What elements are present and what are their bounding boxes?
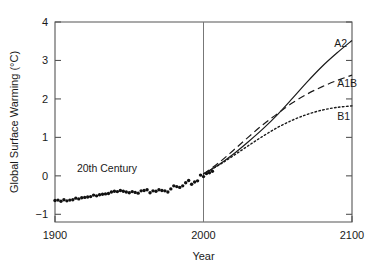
observation-point — [65, 199, 68, 202]
observation-point — [95, 194, 98, 197]
series-observed-20th-century — [53, 170, 214, 203]
observation-point — [199, 173, 202, 176]
observation-point — [107, 192, 110, 195]
observation-point — [169, 187, 172, 190]
x-tick-label: 2100 — [340, 229, 364, 241]
observation-point — [202, 175, 205, 178]
observation-point — [178, 186, 181, 189]
observation-point — [133, 191, 136, 194]
axis-tick-labels: −101234190020002100 — [35, 16, 364, 241]
series-curve-a1b — [204, 75, 353, 174]
observation-point — [80, 196, 83, 199]
series-label-b1: B1 — [337, 110, 350, 122]
observation-point — [62, 198, 65, 201]
data-series — [53, 40, 352, 202]
x-axis-title: Year — [192, 250, 215, 262]
observation-point — [157, 188, 160, 191]
x-tick-label: 1900 — [43, 229, 67, 241]
observation-point — [122, 190, 125, 193]
series-curve-a2 — [204, 40, 353, 173]
observation-point — [172, 184, 175, 187]
annotation-20th-century: 20th Century — [77, 162, 138, 174]
observation-point — [181, 184, 184, 187]
observation-point — [83, 196, 86, 199]
observation-point — [166, 190, 169, 193]
observation-point — [187, 179, 190, 182]
chart-annotations: 20th CenturyA2A1BB1 — [77, 37, 357, 174]
observation-point — [128, 191, 131, 194]
observation-point — [77, 197, 80, 200]
observation-point — [125, 190, 128, 193]
series-label-a2: A2 — [334, 37, 347, 49]
y-tick-label: 3 — [42, 54, 48, 66]
observation-point — [163, 189, 166, 192]
y-tick-label: 2 — [42, 93, 48, 105]
chart-canvas: −101234190020002100 20th CenturyA2A1BB1 … — [0, 0, 380, 280]
global-surface-warming-chart: −101234190020002100 20th CenturyA2A1BB1 … — [0, 0, 380, 280]
observation-point — [145, 188, 148, 191]
observation-point — [113, 190, 116, 193]
y-tick-label: 1 — [42, 131, 48, 143]
x-tick-label: 2000 — [191, 229, 215, 241]
observation-point — [68, 198, 71, 201]
observation-point — [151, 189, 154, 192]
observation-point — [136, 191, 139, 194]
observation-point — [59, 200, 62, 203]
observation-point — [139, 189, 142, 192]
observation-point — [142, 189, 145, 192]
observation-point — [110, 190, 113, 193]
observation-point — [104, 192, 107, 195]
observation-point — [131, 190, 134, 193]
observation-point — [196, 179, 199, 182]
series-label-a1b: A1B — [337, 77, 357, 89]
series-curve-b1 — [204, 106, 353, 174]
observation-point — [184, 181, 187, 184]
observation-point — [190, 183, 193, 186]
observation-point — [154, 190, 157, 193]
observation-point — [101, 193, 104, 196]
observation-point — [148, 191, 151, 194]
y-tick-label: 0 — [42, 170, 48, 182]
observation-point — [92, 193, 95, 196]
y-tick-label: 4 — [42, 16, 48, 28]
observation-point — [116, 190, 119, 193]
observation-point — [175, 185, 178, 188]
observation-point — [71, 198, 74, 201]
y-tick-label: −1 — [35, 208, 48, 220]
y-axis-title: Global Surface Warming (°C) — [8, 51, 20, 193]
observation-point — [53, 199, 56, 202]
observation-point — [160, 189, 163, 192]
observation-point — [89, 195, 92, 198]
observation-point — [193, 180, 196, 183]
observation-point — [56, 198, 59, 201]
observation-point — [86, 195, 89, 198]
observation-point — [98, 193, 101, 196]
observation-point — [119, 189, 122, 192]
observation-point — [74, 196, 77, 199]
